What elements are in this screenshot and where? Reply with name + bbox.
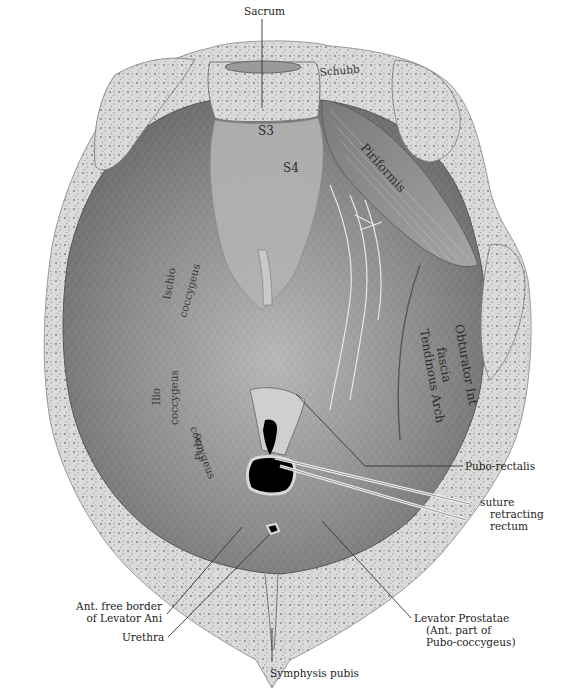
label-suture-line1: suture [480, 496, 544, 508]
pelvic-floor-illustration: S3 S4 Piriformis Schubb Ischio coccygeus… [0, 0, 573, 688]
label-suture-line2: retracting [480, 508, 544, 520]
sacral-canal [225, 61, 301, 73]
label-suture-line3: rectum [480, 520, 544, 532]
label-ilio: Ilio [150, 388, 162, 405]
label-symphysis-pubis: Symphysis pubis [270, 667, 359, 679]
label-ant-free-border-line2: of Levator Ani [40, 612, 162, 624]
label-s3: S3 [258, 124, 274, 138]
label-pubo-rectalis: Pubo-rectalis [465, 460, 535, 472]
label-ant-free-border: Ant. free border of Levator Ani [40, 600, 162, 624]
label-urethra: Urethra [122, 631, 164, 643]
label-levator-prostatae-line2: (Ant. part of [414, 624, 516, 636]
label-levator-prostatae-line3: Pubo-coccygeus) [414, 636, 516, 648]
label-s4: S4 [283, 161, 299, 175]
label-ilio-coccygeus: coccygeus [168, 370, 180, 425]
label-ant-free-border-line1: Ant. free border [40, 600, 162, 612]
label-levator-prostatae-line1: Levator Prostatae [414, 612, 516, 624]
label-suture: suture retracting rectum [480, 496, 544, 532]
label-sacrum: Sacrum [244, 5, 285, 17]
label-levator-prostatae: Levator Prostatae (Ant. part of Pubo-coc… [414, 612, 516, 648]
